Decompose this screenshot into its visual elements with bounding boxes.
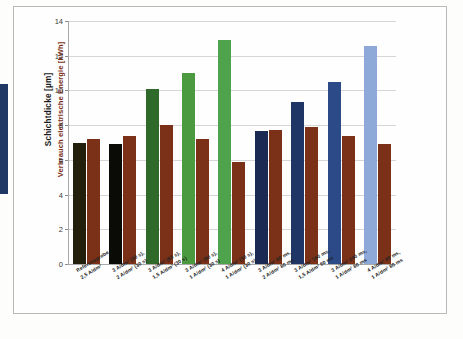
bar-energy [342, 136, 355, 264]
plot-area: 02468101214 [68, 21, 396, 264]
bar-energy [269, 130, 282, 264]
bar-energy [123, 136, 136, 264]
bar-thickness [255, 131, 268, 264]
y-tick-label: 4 [59, 190, 63, 199]
bar-groups [68, 21, 396, 264]
y-tick-label: 14 [55, 17, 63, 26]
y-tick-label: 0 [59, 260, 63, 269]
left-accent-bar [0, 84, 8, 194]
bar-thickness [328, 82, 341, 264]
y-axis-title-energy: Verbrauch elektrische Energie [kWh] [54, 24, 65, 194]
y-tick-label: 10 [55, 86, 63, 95]
bar-energy [87, 139, 100, 264]
bar-thickness [109, 144, 122, 264]
y-tick-label: 6 [59, 155, 63, 164]
bar-group [291, 21, 318, 264]
bar-thickness [218, 40, 231, 264]
x-axis-labels: Referenzprobe2,5 A/dm²3 A/dm² (30 s),2 A… [68, 265, 396, 313]
y-tick-label: 8 [59, 121, 63, 130]
bar-thickness [73, 143, 86, 264]
bar-group [218, 21, 245, 264]
y-axis-title: Schichtdicke [µm] Verbrauch elektrische … [43, 24, 66, 194]
y-tick-label: 2 [59, 225, 63, 234]
bar-energy [378, 144, 391, 264]
bar-thickness [182, 73, 195, 264]
bar-energy [196, 139, 209, 264]
bar-group [146, 21, 173, 264]
y-axis-title-thickness: Schichtdicke [µm] [43, 24, 55, 194]
bar-group [182, 21, 209, 264]
bar-group [255, 21, 282, 264]
y-tick-label: 12 [55, 51, 63, 60]
bar-thickness [364, 46, 377, 264]
bar-thickness [291, 102, 304, 264]
scanned-page: Schichtdicke [µm] Verbrauch elektrische … [0, 0, 463, 339]
bar-group [328, 21, 355, 264]
bar-energy [160, 125, 173, 264]
bar-thickness [146, 89, 159, 264]
bar-group [364, 21, 391, 264]
bar-energy [305, 127, 318, 264]
bar-energy [232, 162, 245, 264]
chart-container: Schichtdicke [µm] Verbrauch elektrische … [13, 6, 447, 314]
bar-group [109, 21, 136, 264]
bar-group [73, 21, 100, 264]
